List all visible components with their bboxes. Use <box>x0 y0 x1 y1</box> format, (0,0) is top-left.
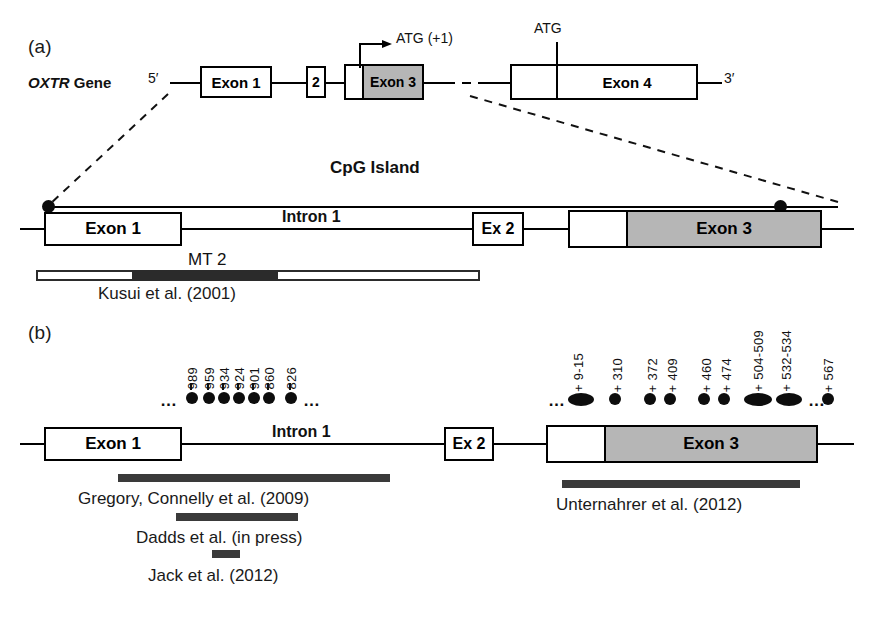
exon3-cpg-dot-9-15 <box>568 393 594 406</box>
zoom-backbone-seg-1 <box>20 228 44 230</box>
dadds-amplicon-bar <box>176 513 298 521</box>
intron-cpg-number-934: 934 <box>218 367 231 390</box>
atg-plus1-arrow-icon <box>358 40 400 70</box>
unternahrer-citation: Unternahrer et al. (2012) <box>556 495 742 515</box>
kusui-bar-left-flank <box>38 272 132 279</box>
exon3-cpg-number-504-509: + 504-509 <box>752 330 765 392</box>
panel-a-label: (a) <box>28 36 52 58</box>
zoom-backbone-seg-2 <box>182 228 472 230</box>
exon3-cpg-number-532-534: + 532-534 <box>780 330 793 392</box>
exon3-cpg-dot-409 <box>664 393 676 405</box>
exon3-cpg-number-567: + 567 <box>822 358 835 392</box>
intron-cpg-dot-989 <box>186 392 198 404</box>
panelb-backbone-seg-3 <box>494 443 546 445</box>
exon3-cpg-trailing-ellipsis: … <box>808 392 826 409</box>
exon3-cpg-number-460: + 460 <box>700 358 713 392</box>
zoom-leader-lines <box>0 84 874 214</box>
intron-cpg-dot-959 <box>203 392 215 404</box>
cpg-island-label: CpG Island <box>330 158 420 178</box>
intron-cpg-number-989: 989 <box>186 367 199 390</box>
zoom-exon-3-box: Exon 3 <box>568 210 822 248</box>
kusui-bar-right-flank <box>278 272 478 279</box>
panelb-backbone-seg-2 <box>182 443 444 445</box>
exon3-cpg-leading-ellipsis: … <box>548 392 566 409</box>
exon3-cpg-dot-504-509 <box>744 393 772 406</box>
gregory-connelly-citation: Gregory, Connelly et al. (2009) <box>78 489 309 509</box>
intron-cpg-dot-901 <box>248 392 260 404</box>
panelb-intron-1-label: Intron 1 <box>272 423 331 441</box>
atg-plus1-label: ATG (+1) <box>396 30 453 46</box>
zoom-exon-2-label: Ex 2 <box>482 220 515 238</box>
panelb-exon-1-label: Exon 1 <box>85 434 141 454</box>
exon3-cpg-dot-474 <box>718 393 730 405</box>
zoom-exon-2-box: Ex 2 <box>472 212 524 246</box>
jack-citation: Jack et al. (2012) <box>148 566 278 586</box>
exon3-cpg-number-9-15: + 9-15 <box>572 353 585 392</box>
mt2-label: MT 2 <box>188 250 226 270</box>
kusui-citation: Kusui et al. (2001) <box>98 284 236 304</box>
intron-cpg-dot-934 <box>218 392 230 404</box>
zoom-backbone-seg-4 <box>822 228 854 230</box>
panelb-exon-2-label: Ex 2 <box>453 435 486 453</box>
unternahrer-amplicon-bar <box>562 480 800 488</box>
intron-cpg-dot-860 <box>263 392 275 404</box>
atg-marker-line <box>556 42 558 66</box>
exon3-cpg-number-409: + 409 <box>666 358 679 392</box>
exon3-cpg-number-474: + 474 <box>720 358 733 392</box>
intron-cpg-number-860: 860 <box>263 367 276 390</box>
zoom-exon-1-label: Exon 1 <box>85 219 141 239</box>
kusui-bar-mt2-region <box>132 272 278 279</box>
gregory-connelly-amplicon-bar <box>118 474 390 482</box>
intron-cpg-dot-924 <box>233 392 245 404</box>
panelb-backbone-seg-4 <box>818 443 854 445</box>
jack-amplicon-bar <box>212 550 240 558</box>
zoom-exon-3-utr <box>570 212 628 246</box>
intron-cpg-trailing-ellipsis: … <box>303 392 321 409</box>
figure-canvas: (a) OXTR Gene 5′ Exon 1 2 Exon 3 ATG (+1… <box>0 0 874 623</box>
intron-cpg-leading-ellipsis: … <box>160 392 178 409</box>
exon3-cpg-number-group: + 9-15 + 310 + 372 + 409 + 460 + 474 + 5… <box>572 330 812 392</box>
zoom-intron-1-label: Intron 1 <box>282 208 341 226</box>
intron-cpg-number-959: 959 <box>203 367 216 390</box>
exon3-cpg-number-310: + 310 <box>611 358 624 392</box>
zoom-backbone-seg-3 <box>524 228 568 230</box>
intron-cpg-number-901: 901 <box>248 367 261 390</box>
panelb-exon-3-label: Exon 3 <box>606 427 816 461</box>
exon3-cpg-dot-310 <box>609 393 621 405</box>
intron-cpg-dot-826 <box>285 392 297 404</box>
panelb-exon-1-box: Exon 1 <box>44 427 182 461</box>
atg-label: ATG <box>534 20 562 36</box>
panelb-backbone-seg-1 <box>20 443 44 445</box>
intron-cpg-number-826: 826 <box>285 367 298 390</box>
zoom-exon-1-box: Exon 1 <box>44 212 182 246</box>
panelb-exon-2-box: Ex 2 <box>444 427 494 461</box>
exon3-cpg-number-372: + 372 <box>646 358 659 392</box>
dadds-citation: Dadds et al. (in press) <box>136 528 302 548</box>
panel-b-label: (b) <box>28 322 52 344</box>
exon3-cpg-dot-460 <box>698 393 710 405</box>
intron-cpg-number-924: 924 <box>233 367 246 390</box>
kusui-amplicon-bar <box>36 270 480 281</box>
cpg-island-span-line <box>48 206 838 208</box>
exon3-cpg-dot-532-534 <box>776 393 802 406</box>
panelb-exon-3-utr <box>548 427 606 461</box>
zoom-exon-3-label: Exon 3 <box>628 212 820 246</box>
exon3-cpg-dot-372 <box>644 393 656 405</box>
panelb-exon-3-box: Exon 3 <box>546 425 818 463</box>
